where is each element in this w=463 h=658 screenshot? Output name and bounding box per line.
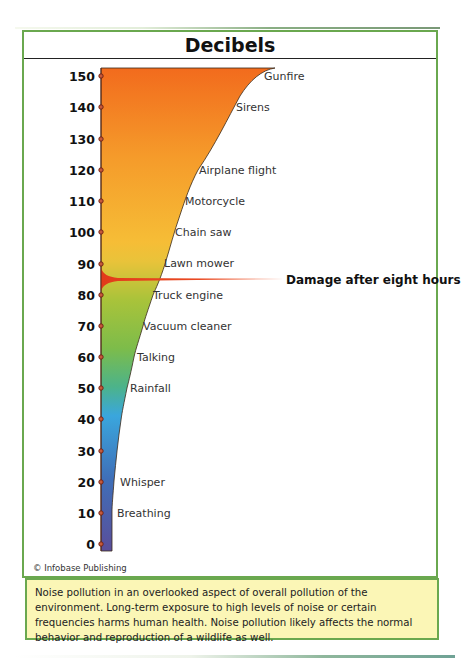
tick-dot: [99, 417, 103, 421]
tick-label: 0: [86, 537, 95, 552]
tick-label: 30: [78, 444, 96, 459]
tick-label: 90: [78, 257, 96, 272]
tick-dot: [99, 230, 103, 234]
source-label-sirens: Sirens: [236, 101, 270, 114]
tick-label: 60: [78, 350, 96, 365]
tick-dot: [99, 137, 103, 141]
tick-label: 120: [69, 163, 95, 178]
tick-dot: [99, 480, 103, 484]
figure-caption: Noise pollution in an overlooked aspect …: [25, 578, 439, 640]
tick-label: 70: [78, 319, 96, 334]
tick-dot: [99, 449, 103, 453]
tick-label: 20: [78, 475, 96, 490]
tick-dot: [99, 511, 103, 515]
decibel-chart: 150 140 130 120 110 100 90 80 70 60 50 4…: [0, 0, 463, 658]
tick-label: 40: [78, 412, 96, 427]
source-label-chainsaw: Chain saw: [175, 226, 231, 239]
tick-label: 140: [69, 100, 95, 115]
source-label-motorcycle: Motorcycle: [185, 195, 245, 208]
source-label-vacuum: Vacuum cleaner: [143, 320, 232, 333]
publisher-credit: © Infobase Publishing: [33, 563, 127, 573]
tick-dot: [99, 293, 103, 297]
source-label-lawnmower: Lawn mower: [164, 257, 235, 270]
tick-dot: [99, 199, 103, 203]
tick-dot: [99, 105, 103, 109]
tick-label: 80: [78, 288, 96, 303]
source-label-rainfall: Rainfall: [130, 382, 171, 395]
tick-dot: [99, 168, 103, 172]
tick-label: 50: [78, 381, 96, 396]
tick-dot: [99, 386, 103, 390]
tick-dot: [99, 324, 103, 328]
damage-annotation: Damage after eight hours: [286, 273, 461, 287]
tick-dot: [99, 74, 103, 78]
tick-dot: [99, 542, 103, 546]
tick-dot: [99, 262, 103, 266]
y-axis-labels: 150 140 130 120 110 100 90 80 70 60 50 4…: [69, 69, 95, 552]
tick-dot: [99, 355, 103, 359]
source-label-talking: Talking: [136, 351, 175, 364]
tick-label: 10: [78, 506, 96, 521]
tick-label: 130: [69, 132, 95, 147]
tick-label: 110: [69, 194, 95, 209]
source-label-breathing: Breathing: [117, 507, 171, 520]
source-label-airplane: Airplane flight: [199, 164, 277, 177]
source-label-gunfire: Gunfire: [264, 70, 305, 83]
source-label-whisper: Whisper: [120, 476, 165, 489]
source-label-truck: Truck engine: [152, 289, 223, 302]
tick-label: 100: [69, 225, 95, 240]
tick-label: 150: [69, 69, 95, 84]
